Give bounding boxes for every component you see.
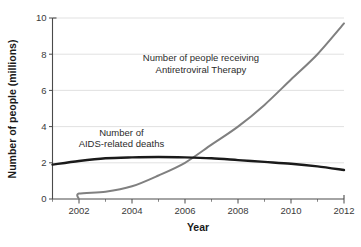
chart-figure: 0246810 200220042006200820102012 Number … <box>0 0 361 247</box>
line-chart: 0246810 200220042006200820102012 Number … <box>0 0 361 247</box>
x-tick-label: 2008 <box>227 205 248 216</box>
y-tick-label: 10 <box>36 12 47 23</box>
x-tick-label: 2012 <box>333 205 354 216</box>
x-axis-tickmarks <box>53 199 345 204</box>
x-tick-label: 2002 <box>68 205 89 216</box>
art-annotation: Number of people receivingAntiretroviral… <box>143 52 259 75</box>
chart-annotations: Number of people receivingAntiretroviral… <box>79 52 259 149</box>
y-tick-label: 4 <box>41 121 46 132</box>
y-tick-label: 2 <box>41 157 46 168</box>
deaths-annotation: Number ofAIDS-related deaths <box>79 127 165 150</box>
y-tick-label: 6 <box>41 85 46 96</box>
x-axis-tick-labels: 200220042006200820102012 <box>68 205 354 216</box>
x-axis-title: Year <box>187 221 209 233</box>
x-tick-label: 2004 <box>121 205 142 216</box>
axis-spines <box>53 18 345 199</box>
y-axis-tick-labels: 0246810 <box>36 12 47 204</box>
x-tick-label: 2006 <box>174 205 195 216</box>
y-tick-label: 0 <box>41 193 46 204</box>
series-line-art <box>77 23 344 199</box>
series-line-aids-deaths <box>53 157 345 170</box>
data-series <box>53 23 345 199</box>
x-tick-label: 2010 <box>280 205 301 216</box>
y-tick-label: 8 <box>41 49 46 60</box>
y-axis-title: Number of people (millions) <box>6 40 18 179</box>
